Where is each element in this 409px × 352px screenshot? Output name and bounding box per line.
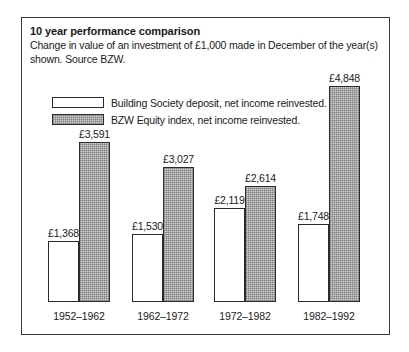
bar-pair: £1,368 £3,591 [48,62,110,302]
bar-group: £1,368 £3,591 1952–1962 [48,62,110,302]
category-label: 1952–1962 [53,310,105,322]
bar-group: £2,119 £2,614 1972–1982 [214,62,276,302]
bar-pair: £2,119 £2,614 [214,62,276,302]
bar-value-label: £3,591 [79,128,110,140]
bar-building-society: £1,368 [48,241,79,302]
bar-pair: £1,530 £3,027 [132,62,194,302]
bar-pair: £1,748 £4,848 [298,62,360,302]
bar-bzw-equity: £3,591 [79,142,110,302]
chart-frame: 10 year performance comparison Change in… [21,17,390,335]
category-label: 1972–1982 [219,310,271,322]
bar-value-label: £1,368 [48,227,79,239]
bar-bzw-equity: £3,027 [163,167,194,302]
bar-building-society: £1,748 [298,224,329,302]
plot-area: £1,368 £3,591 1952–1962 £1,530 £3,027 19… [22,18,391,336]
bar-value-label: £3,027 [163,153,194,165]
bar-bzw-equity: £4,848 [329,86,360,302]
bar-bzw-equity: £2,614 [245,186,276,302]
bar-value-label: £2,119 [214,194,244,206]
category-label: 1982–1992 [303,310,355,322]
bar-value-label: £1,748 [298,210,329,222]
bar-value-label: £4,848 [329,72,360,84]
bar-value-label: £2,614 [245,172,276,184]
bar-group: £1,748 £4,848 1982–1992 [298,62,360,302]
bar-building-society: £1,530 [132,234,163,302]
bar-value-label: £1,530 [132,220,163,232]
bar-group: £1,530 £3,027 1962–1972 [132,62,194,302]
bar-building-society: £2,119 [214,208,245,302]
category-label: 1962–1972 [137,310,189,322]
